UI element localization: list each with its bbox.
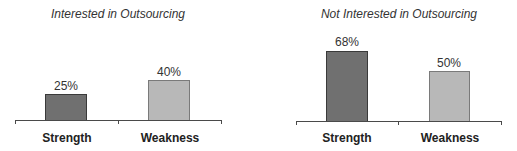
value-label-weakness: 40%	[157, 65, 181, 79]
axis-tick	[296, 121, 297, 125]
value-label-strength: 68%	[335, 35, 359, 49]
axis-tick	[398, 121, 399, 125]
bar-strength	[45, 94, 87, 121]
axis-tick	[118, 120, 119, 124]
axis-tick	[15, 120, 16, 124]
x-axis	[296, 121, 502, 122]
bar-strength	[326, 51, 368, 122]
bar-weakness	[148, 80, 190, 121]
axis-tick	[221, 120, 222, 124]
category-label-strength: Strength	[42, 131, 91, 145]
value-label-weakness: 50%	[437, 56, 461, 70]
axis-tick	[501, 121, 502, 125]
chart-title: Not Interested in Outsourcing	[321, 7, 477, 21]
category-label-strength: Strength	[322, 131, 371, 145]
bar-weakness	[429, 71, 470, 122]
chart-interested: Interested in Outsourcing 25% 40% Streng…	[0, 0, 258, 151]
category-label-weakness: Weakness	[141, 131, 199, 145]
chart-title: Interested in Outsourcing	[51, 7, 185, 21]
value-label-strength: 25%	[54, 79, 78, 93]
chart-not-interested: Not Interested in Outsourcing 68% 50% St…	[258, 0, 517, 151]
category-label-weakness: Weakness	[421, 131, 479, 145]
